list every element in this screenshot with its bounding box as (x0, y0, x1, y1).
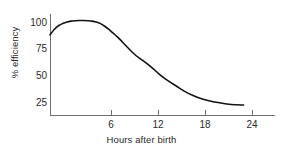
y-tick-label-50: 50 (21, 71, 47, 81)
y-axis-line (50, 14, 51, 116)
efficiency-curve (50, 20, 244, 105)
x-tick-mark-24 (252, 110, 253, 115)
x-tick-label-18: 18 (190, 119, 220, 130)
x-tick-label-6: 6 (96, 119, 126, 130)
x-tick-label-12: 12 (143, 119, 173, 130)
x-tick-mark-12 (158, 110, 159, 115)
chart-figure: % efficiency 100 75 50 25 6 12 18 24 Hou… (0, 0, 283, 154)
y-axis-tick-labels: 100 75 50 25 (20, 0, 47, 154)
x-tick-mark-6 (111, 110, 112, 115)
x-tick-label-24: 24 (237, 119, 267, 130)
y-axis-label: % efficiency (9, 8, 20, 98)
x-axis-label: Hours after birth (0, 134, 283, 145)
y-tick-label-100: 100 (21, 18, 47, 28)
y-tick-label-75: 75 (21, 44, 47, 54)
x-tick-mark-18 (205, 110, 206, 115)
x-axis-line (50, 115, 275, 116)
y-tick-label-25: 25 (21, 98, 47, 108)
